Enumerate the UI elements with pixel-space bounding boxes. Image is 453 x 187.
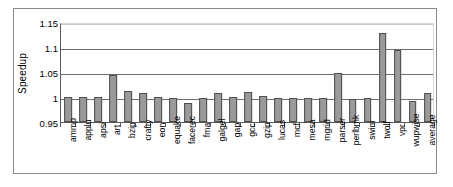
bar <box>124 91 132 122</box>
y-tick-label: 1.05 <box>28 68 58 79</box>
x-tick-mark <box>60 123 61 127</box>
bar-slot <box>345 24 360 122</box>
bar-slot <box>226 24 241 122</box>
x-tick-label: parser <box>329 128 344 178</box>
bar-slot <box>375 24 390 122</box>
x-tick-label: wupwise <box>404 128 419 178</box>
y-tick-label: 1.15 <box>28 18 58 29</box>
x-tick-label: equake <box>165 128 180 178</box>
plot-area <box>60 23 434 123</box>
bar <box>394 50 402 122</box>
bar-slot <box>315 24 330 122</box>
x-tick-label: gap <box>225 128 240 178</box>
x-tick-label: facerec <box>180 128 195 178</box>
bar-slot <box>255 24 270 122</box>
bar <box>304 98 312 123</box>
bar <box>109 75 117 122</box>
bar-slot <box>285 24 300 122</box>
y-axis-title-label: Speedup <box>17 53 28 94</box>
bar-slot <box>241 24 256 122</box>
y-tick-label: 1 <box>28 93 58 104</box>
bar-series <box>61 24 433 122</box>
x-tick-label: apsi <box>90 128 105 178</box>
bar <box>229 97 237 122</box>
y-tick-label: 1.1 <box>28 43 58 54</box>
x-tick-label: perlbmk <box>344 128 359 178</box>
x-tick-label: mesa <box>299 128 314 178</box>
bar-slot <box>330 24 345 122</box>
bar-slot <box>300 24 315 122</box>
bar-slot <box>151 24 166 122</box>
bar-slot <box>121 24 136 122</box>
bar <box>139 93 147 122</box>
bar-slot <box>166 24 181 122</box>
bar-slot <box>91 24 106 122</box>
bar-slot <box>420 24 435 122</box>
x-tick-label: twolf <box>374 128 389 178</box>
x-tick-label-text: average <box>427 114 437 145</box>
bar <box>199 98 207 122</box>
bar <box>244 92 252 123</box>
x-tick-label: mgrid <box>314 128 329 178</box>
bar-slot <box>270 24 285 122</box>
bar-slot <box>390 24 405 122</box>
y-axis-tick-labels: 0.9511.051.11.15 <box>28 21 58 125</box>
bar <box>94 97 102 122</box>
bar-slot <box>360 24 375 122</box>
bar <box>334 73 342 123</box>
bar-slot <box>106 24 121 122</box>
x-tick-label: applu <box>75 128 90 178</box>
y-tick-label: 0.95 <box>28 118 58 129</box>
bar-slot <box>196 24 211 122</box>
bar <box>274 98 282 122</box>
x-tick-label: mcf <box>284 128 299 178</box>
x-tick-label: vpr <box>389 128 404 178</box>
x-tick-label: gzip <box>254 128 269 178</box>
x-tick-label: gcc <box>240 128 255 178</box>
x-tick-label: galgel <box>210 128 225 178</box>
x-tick-label: art <box>105 128 120 178</box>
x-tick-label: crafty <box>135 128 150 178</box>
bar <box>259 96 267 122</box>
x-tick-label: swim <box>359 128 374 178</box>
bar <box>364 98 372 122</box>
bar-slot <box>181 24 196 122</box>
bar-slot <box>211 24 226 122</box>
bar-slot <box>61 24 76 122</box>
x-tick-label: bzip <box>120 128 135 178</box>
bar <box>80 97 88 122</box>
x-tick-label: average <box>419 128 434 178</box>
bar <box>379 33 387 123</box>
bar-slot <box>76 24 91 122</box>
x-tick-label: eon <box>150 128 165 178</box>
x-tick-label: ammp <box>60 128 75 178</box>
x-tick-label: lucas <box>269 128 284 178</box>
x-tick-label: fma <box>195 128 210 178</box>
bar-slot <box>405 24 420 122</box>
bar <box>154 97 162 122</box>
x-axis-tick-labels: ammpappluapsiartbzipcraftyeonequakefacer… <box>60 128 434 180</box>
chart-figure-frame: Speedup 0.9511.051.11.15 ammpappluapsiar… <box>13 8 437 174</box>
bar-slot <box>136 24 151 122</box>
bar <box>289 98 297 123</box>
